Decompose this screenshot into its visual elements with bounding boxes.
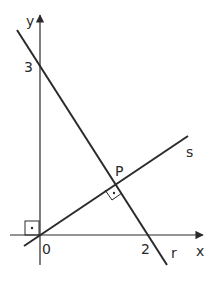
- point-p-label: P: [115, 163, 123, 179]
- x-tick-label-2: 2: [141, 241, 150, 257]
- y-tick-label-3: 3: [24, 59, 33, 75]
- y-axis-label: y: [26, 13, 34, 29]
- right-angle-mark-origin: [25, 221, 39, 235]
- line-s-label: s: [186, 144, 193, 160]
- origin-label: 0: [42, 241, 51, 257]
- coordinate-diagram: y x 3 0 2 P s r: [0, 0, 209, 285]
- x-axis-label: x: [196, 243, 204, 259]
- line-r-label: r: [171, 245, 177, 261]
